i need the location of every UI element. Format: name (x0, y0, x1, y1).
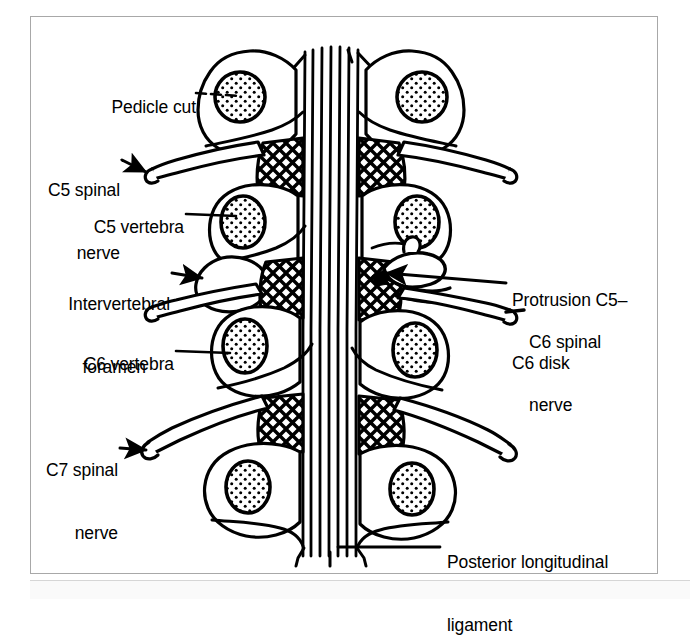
label-pll-line2: ligament (447, 615, 677, 636)
label-c6-vertebra: C6 vertebra (0, 333, 174, 396)
vertebral-body-right-c6 (352, 311, 449, 399)
leader-c7-spinal-nerve (120, 448, 146, 450)
vertebral-body-right-c7 (357, 445, 455, 548)
label-c5-vertebra: C5 vertebra (0, 196, 184, 259)
vertebral-body-left-c6 (212, 307, 313, 397)
label-pedicle-cut-text: Pedicle cut (111, 97, 196, 117)
label-c6-spinal-nerve-line2: nerve (529, 395, 641, 416)
label-c6-spinal-nerve-line1: C6 spinal (529, 332, 679, 353)
label-intervertebral-foramen-line1: Intervertebral (0, 294, 170, 315)
nerve-root-left-c5 (145, 142, 264, 183)
label-pedicle-cut: Pedicle cut (0, 76, 196, 139)
label-pll-line1: Posterior longitudinal (447, 552, 677, 573)
label-posterior-longitudinal-ligament: Posterior longitudinal ligament (447, 510, 677, 639)
label-c7-spinal-nerve-line2: nerve (0, 523, 118, 544)
label-c6-spinal-nerve: C6 spinal nerve (529, 290, 679, 458)
label-c5-vertebra-text: C5 vertebra (94, 217, 184, 237)
vertebral-body-left-c7 (205, 443, 303, 546)
label-c7-spinal-nerve-line1: C7 spinal (0, 460, 118, 481)
label-c7-spinal-nerve: C7 spinal nerve (0, 418, 118, 586)
ligament-fibers (303, 47, 358, 556)
leader-c5-spinal-nerve (122, 160, 146, 172)
nerve-root-right-c5 (398, 142, 517, 183)
label-c6-vertebra-text: C6 vertebra (84, 354, 174, 374)
